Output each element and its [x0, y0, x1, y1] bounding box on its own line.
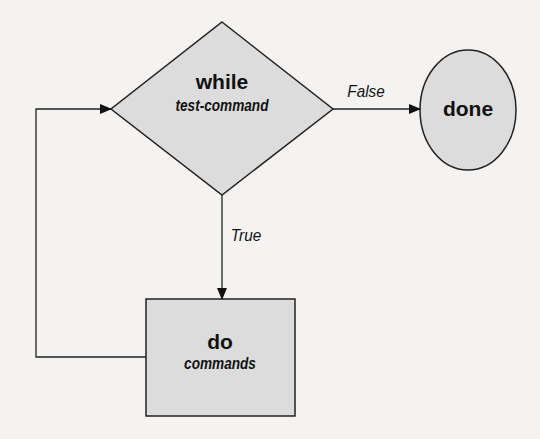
flowchart-canvas: [0, 0, 540, 439]
while-test-command: test-command: [163, 97, 282, 115]
do-keyword: do: [170, 330, 270, 354]
true-label: True: [228, 226, 264, 246]
loop-back-arrow: [36, 109, 146, 357]
while-keyword: while: [172, 70, 272, 94]
false-label: False: [339, 82, 393, 102]
do-commands: commands: [169, 355, 271, 373]
done-keyword: done: [418, 97, 518, 121]
